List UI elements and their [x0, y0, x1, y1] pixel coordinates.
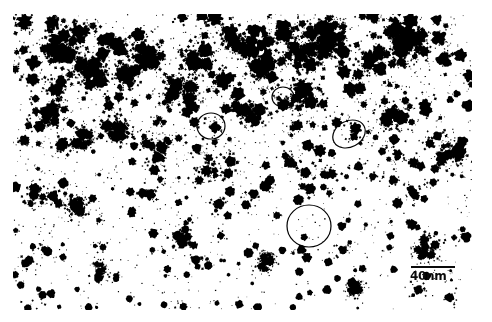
scale-bar-label: 40nm	[410, 270, 459, 283]
micrograph-figure: 40nm	[0, 0, 492, 322]
scale-bar: 40nm	[409, 266, 459, 283]
scale-bar-line	[411, 266, 455, 268]
